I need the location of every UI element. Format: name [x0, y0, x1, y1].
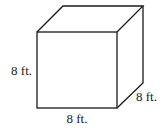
width-label: 8 ft.	[67, 111, 88, 126]
cube-front-face	[37, 32, 117, 108]
height-label: 8 ft.	[11, 63, 32, 78]
depth-label: 8 ft.	[136, 89, 157, 104]
cube-top-face	[37, 6, 143, 32]
cube-diagram: 8 ft. 8 ft. 8 ft.	[0, 0, 166, 132]
